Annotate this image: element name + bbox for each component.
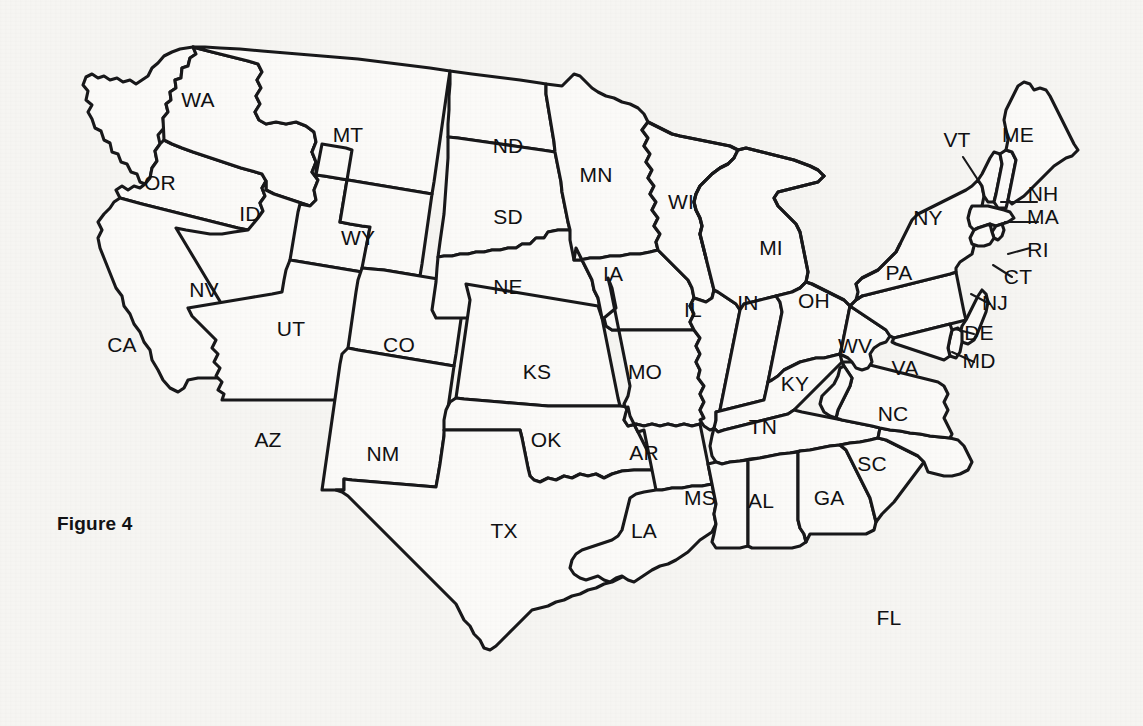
state-label-WI[interactable]: WI xyxy=(668,190,694,213)
state-label-GA[interactable]: GA xyxy=(814,486,845,509)
state-label-IN[interactable]: IN xyxy=(737,291,758,314)
state-label-ID[interactable]: ID xyxy=(239,202,260,225)
state-label-MT[interactable]: MT xyxy=(333,123,364,146)
state-label-RI[interactable]: RI xyxy=(1027,238,1048,261)
state-label-PA[interactable]: PA xyxy=(886,261,913,284)
state-label-MA[interactable]: MA xyxy=(1027,205,1059,228)
state-label-WA[interactable]: WA xyxy=(181,88,214,111)
state-label-UT[interactable]: UT xyxy=(277,317,305,340)
state-label-AZ[interactable]: AZ xyxy=(254,428,281,451)
leader-line-VT xyxy=(963,157,978,180)
state-label-OH[interactable]: OH xyxy=(798,289,830,312)
state-label-VT[interactable]: VT xyxy=(943,128,970,151)
figure-4-us-map: WAORCAIDNVUTAZMTWYCONMNDSDNEKSOKTXMNIAMO… xyxy=(0,0,1143,726)
state-label-IL[interactable]: IL xyxy=(684,298,702,321)
state-label-CO[interactable]: CO xyxy=(383,333,415,356)
state-label-NH[interactable]: NH xyxy=(1028,182,1059,205)
state-label-LA[interactable]: LA xyxy=(631,519,657,542)
state-label-SC[interactable]: SC xyxy=(857,452,887,475)
state-outlines xyxy=(83,47,1078,650)
state-label-OR[interactable]: OR xyxy=(144,171,176,194)
state-label-AR[interactable]: AR xyxy=(629,441,659,464)
state-label-NE[interactable]: NE xyxy=(493,275,523,298)
state-label-MD[interactable]: MD xyxy=(962,349,995,372)
state-label-MO[interactable]: MO xyxy=(628,360,662,383)
state-label-MN[interactable]: MN xyxy=(579,163,612,186)
us-states-map: WAORCAIDNVUTAZMTWYCONMNDSDNEKSOKTXMNIAMO… xyxy=(0,0,1143,726)
state-label-IA[interactable]: IA xyxy=(603,262,623,285)
state-label-NM[interactable]: NM xyxy=(366,442,399,465)
state-label-NV[interactable]: NV xyxy=(189,278,219,301)
state-label-VA[interactable]: VA xyxy=(892,356,919,379)
state-label-TN[interactable]: TN xyxy=(749,415,777,438)
state-label-CT[interactable]: CT xyxy=(1004,265,1032,288)
state-label-AL[interactable]: AL xyxy=(748,489,774,512)
figure-caption: Figure 4 xyxy=(57,513,133,535)
state-label-NC[interactable]: NC xyxy=(878,402,909,425)
state-label-TX[interactable]: TX xyxy=(490,519,517,542)
state-label-MI[interactable]: MI xyxy=(759,236,783,259)
state-label-ND[interactable]: ND xyxy=(493,134,524,157)
state-label-FL[interactable]: FL xyxy=(877,606,902,629)
state-label-NJ[interactable]: NJ xyxy=(982,291,1008,314)
state-label-KY[interactable]: KY xyxy=(781,372,809,395)
state-label-DE[interactable]: DE xyxy=(964,321,994,344)
state-label-SD[interactable]: SD xyxy=(493,205,523,228)
state-label-KS[interactable]: KS xyxy=(523,360,551,383)
state-label-CA[interactable]: CA xyxy=(107,333,137,356)
state-label-WV[interactable]: WV xyxy=(838,334,872,357)
state-label-OK[interactable]: OK xyxy=(531,428,562,451)
state-shape-NM[interactable] xyxy=(322,348,454,490)
state-label-NY[interactable]: NY xyxy=(913,206,943,229)
state-label-ME[interactable]: ME xyxy=(1002,123,1034,146)
state-label-WY[interactable]: WY xyxy=(341,226,375,249)
state-shape-NY[interactable] xyxy=(856,180,984,300)
state-label-MS[interactable]: MS xyxy=(684,486,716,509)
